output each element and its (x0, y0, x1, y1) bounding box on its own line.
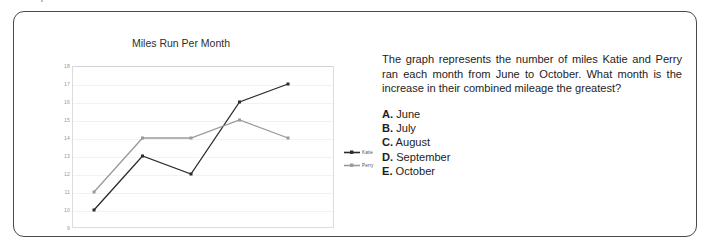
answer-option-label: October (392, 165, 435, 177)
data-point-katie-august (190, 173, 193, 176)
answer-option-august[interactable]: C. August (382, 135, 682, 149)
data-point-perry-june (93, 191, 96, 194)
answer-option-label: August (393, 136, 430, 148)
answer-option-october[interactable]: E. October (382, 164, 682, 178)
y-axis-tick-label: 14 (64, 135, 70, 141)
chart-series-layer (72, 66, 334, 228)
series-line-katie (94, 84, 288, 210)
data-point-perry-september (238, 119, 241, 122)
answer-option-letter: D. (382, 151, 393, 163)
y-axis-tick-label: 9 (67, 225, 70, 231)
legend-swatch-perry-icon (344, 162, 360, 169)
answer-option-september[interactable]: D. September (382, 150, 682, 164)
y-axis: 1817161514131211109 (50, 66, 70, 228)
answer-options: A. JuneB. JulyC. AugustD. SeptemberE. Oc… (382, 107, 682, 178)
question-card: Miles Run Per Month 1817161514131211109 … (13, 11, 697, 237)
answer-option-july[interactable]: B. July (382, 121, 682, 135)
legend-label: Katie (362, 150, 373, 155)
y-axis-tick-label: 10 (64, 207, 70, 213)
data-point-perry-july (141, 137, 144, 140)
data-point-katie-july (141, 155, 144, 158)
y-axis-tick-label: 13 (64, 153, 70, 159)
question-text: The graph represents the number of miles… (382, 52, 682, 96)
y-axis-tick-label: 12 (64, 171, 70, 177)
answer-option-label: September (393, 151, 450, 163)
chart-title: Miles Run Per Month (132, 37, 230, 49)
clipped-header-text: the ... question (0, 0, 711, 8)
answer-option-label: June (393, 108, 420, 120)
legend-swatch-katie-icon (344, 149, 360, 156)
data-point-katie-october (287, 83, 290, 86)
y-axis-tick-label: 18 (64, 63, 70, 69)
answer-option-letter: A. (382, 108, 393, 120)
answer-option-june[interactable]: A. June (382, 107, 682, 121)
clipped-header-label: the ... question (8, 0, 77, 2)
y-axis-tick-label: 11 (64, 189, 70, 195)
answer-option-letter: C. (382, 136, 393, 148)
legend-label: Perry (362, 163, 373, 168)
y-axis-tick-label: 15 (64, 117, 70, 123)
data-point-perry-october (287, 137, 290, 140)
y-axis-tick-label: 17 (64, 81, 70, 87)
answer-option-label: July (393, 122, 416, 134)
y-axis-tick-label: 16 (64, 99, 70, 105)
answer-option-letter: B. (382, 122, 393, 134)
data-point-perry-august (190, 137, 193, 140)
data-point-katie-june (93, 209, 96, 212)
data-point-katie-september (238, 101, 241, 104)
chart-panel: Miles Run Per Month 1817161514131211109 … (28, 18, 383, 230)
series-line-perry (94, 120, 288, 192)
answer-option-letter: E. (382, 165, 392, 177)
question-panel: The graph represents the number of miles… (382, 52, 682, 178)
